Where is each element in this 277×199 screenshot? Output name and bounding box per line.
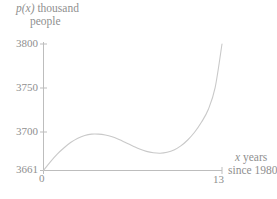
x-tick-label-13: 13 [213,173,224,185]
y-tick-label-3800: 3800 [2,37,38,49]
x-tick-label-0: 0 [39,172,45,184]
x-axis-unit: years [240,151,267,163]
y-axis-variable: p(x) [16,2,35,14]
y-axis-unit: thousand [35,2,79,14]
y-tick-label-3661: 3661 [2,163,38,175]
y-axis-label: p(x) thousand people [16,2,79,28]
x-axis-label: x years since 1980 [228,151,277,177]
x-axis-label-line2: since 1980 [228,164,277,177]
y-tick-label-3700: 3700 [2,125,38,137]
y-axis-label-line2: people [16,15,79,28]
population-curve [44,44,223,171]
y-tick-label-3750: 3750 [2,81,38,93]
